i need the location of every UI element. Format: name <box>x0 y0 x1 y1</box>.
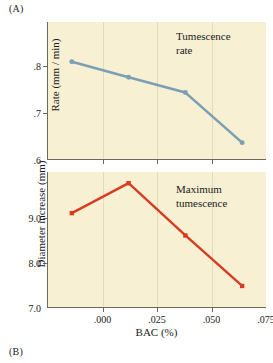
series-annotation-tumescence-rate: Tumescence rate <box>176 30 231 58</box>
x-tick-label: .075 <box>257 314 273 325</box>
x-tick-label: .050 <box>203 314 221 325</box>
y-tick-label: 7.0 <box>29 303 42 314</box>
x-tick <box>157 159 158 164</box>
series-annotation-maximum-tumescence: Maximum tumescence <box>176 183 227 211</box>
tumescence-rate-series <box>48 22 266 159</box>
x-tick <box>103 307 104 312</box>
x-tick-label: .000 <box>94 314 112 325</box>
data-point <box>126 181 130 185</box>
y-tick <box>43 113 48 114</box>
series-annotation-line-2: tumescence <box>176 197 227 211</box>
y-axis-title: Diameter increase (mm) <box>35 146 47 282</box>
data-point <box>240 284 244 288</box>
x-tick <box>212 159 213 164</box>
series-annotation-line-1: Maximum <box>176 183 227 197</box>
data-point <box>183 90 188 95</box>
data-point <box>70 211 74 215</box>
x-tick <box>212 307 213 312</box>
tumescence-rate-chart: .8 .7 .6 Rate (mm / min) Tumescence rate <box>47 22 266 160</box>
data-point <box>69 59 74 64</box>
x-axis-title: BAC (%) <box>47 326 266 338</box>
maximum-tumescence-series <box>48 172 266 307</box>
panel-b-label: (B) <box>9 346 23 357</box>
y-axis-title: Rate (mm / min) <box>49 6 61 144</box>
data-point <box>240 140 245 145</box>
maximum-tumescence-chart: 9.0 8.0 7.0 .000 .025 .050 .075 Diameter… <box>47 172 266 308</box>
x-tick <box>157 307 158 312</box>
panel-a-label: (A) <box>9 3 23 14</box>
data-point <box>183 233 187 237</box>
x-tick <box>103 159 104 164</box>
data-point <box>126 75 131 80</box>
y-tick <box>43 66 48 67</box>
y-tick-label: .8 <box>34 60 42 71</box>
series-annotation-line-1: Tumescence <box>176 30 231 44</box>
y-tick-label: .7 <box>34 107 42 118</box>
x-tick-label: .025 <box>148 314 166 325</box>
series-annotation-line-2: rate <box>176 44 231 58</box>
